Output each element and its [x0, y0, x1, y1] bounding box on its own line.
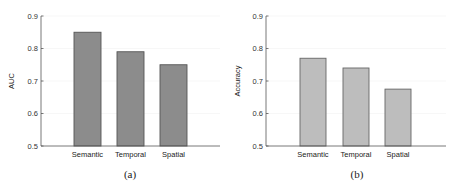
panel-caption: (b): [351, 168, 364, 181]
x-category-labels: SemanticTemporalSpatial: [72, 150, 185, 159]
chart-panel-b: 0.50.60.70.80.9 SemanticTemporalSpatial …: [233, 12, 446, 181]
y-tick-label: 0.6: [253, 109, 263, 118]
y-tick-label: 0.6: [28, 109, 38, 118]
bar-spatial: [385, 89, 411, 146]
x-category-label: Semantic: [297, 150, 329, 159]
y-tick-label: 0.7: [253, 77, 263, 86]
y-tick-label: 0.8: [253, 44, 263, 53]
bar-spatial: [160, 65, 187, 146]
x-category-labels: SemanticTemporalSpatial: [297, 150, 409, 159]
bar-temporal: [117, 52, 144, 146]
panel-caption: (a): [124, 168, 137, 181]
bar-temporal: [343, 68, 369, 146]
x-category-label: Spatial: [162, 150, 185, 159]
bar-semantic: [300, 58, 326, 146]
chart-panel-a: 0.50.60.70.80.9 SemanticTemporalSpatial …: [7, 12, 220, 181]
y-tick-label: 0.9: [253, 12, 263, 21]
x-category-label: Temporal: [115, 150, 146, 159]
y-tick-label: 0.8: [28, 44, 38, 53]
y-tick-label: 0.5: [253, 142, 263, 151]
bar-semantic: [74, 32, 101, 146]
y-tick-label: 0.7: [28, 77, 38, 86]
x-category-label: Spatial: [387, 150, 410, 159]
bars: [300, 58, 411, 146]
x-category-label: Semantic: [72, 150, 104, 159]
y-tick-label: 0.5: [28, 142, 38, 151]
y-tick-label: 0.9: [28, 12, 38, 21]
figure: 0.50.60.70.80.9 SemanticTemporalSpatial …: [0, 0, 462, 185]
figure-canvas: 0.50.60.70.80.9 SemanticTemporalSpatial …: [0, 0, 462, 185]
x-category-label: Temporal: [341, 150, 372, 159]
y-axis-label: AUC: [7, 73, 16, 89]
y-axis-label: Accuracy: [233, 65, 242, 96]
bars: [74, 32, 187, 146]
